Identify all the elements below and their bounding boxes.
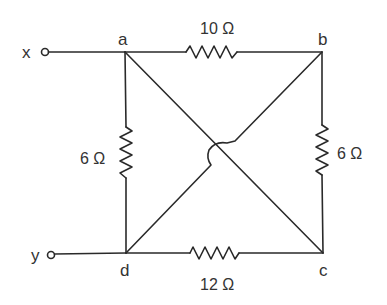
- resistor-bc: 6 Ω: [316, 52, 362, 253]
- node-a-label: a: [118, 30, 128, 49]
- resistor-dc-label: 12 Ω: [200, 276, 234, 293]
- terminal-y-icon: [48, 252, 55, 259]
- resistor-bc-icon: [316, 125, 328, 175]
- resistor-dc: 12 Ω: [126, 247, 323, 293]
- node-d-label: d: [120, 261, 129, 280]
- terminal-y: y: [31, 246, 55, 265]
- resistor-ab-label: 10 Ω: [200, 20, 234, 37]
- terminal-x-icon: [42, 49, 49, 56]
- resistor-ab: 10 Ω: [125, 20, 322, 58]
- terminal-x: x: [22, 43, 49, 62]
- resistor-ad-icon: [120, 127, 132, 178]
- resistor-dc-icon: [190, 247, 239, 259]
- terminal-y-label: y: [31, 246, 40, 265]
- resistor-ad: 6 Ω: [80, 52, 132, 253]
- resistor-bc-label: 6 Ω: [337, 145, 362, 162]
- node-b-label: b: [318, 30, 327, 49]
- node-c-label: c: [319, 261, 328, 280]
- circuit-diagram: x y 10 Ω 6 Ω 12 Ω 6 Ω a b c: [0, 0, 387, 305]
- terminal-x-label: x: [22, 43, 31, 62]
- wire-y-d: [55, 253, 127, 254]
- resistor-ad-label: 6 Ω: [80, 150, 105, 167]
- resistor-ab-icon: [186, 46, 237, 58]
